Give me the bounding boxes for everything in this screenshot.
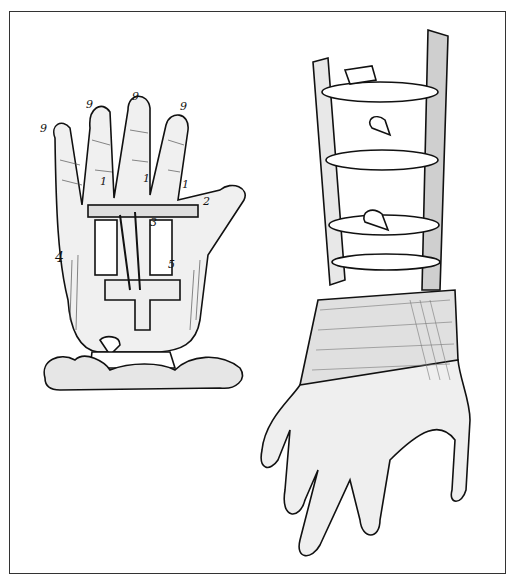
mechanical-hand (44, 96, 245, 390)
label-joint-1: 1 (100, 175, 107, 188)
label-spring: 5 (168, 258, 175, 271)
label-rod: 4 (54, 249, 64, 265)
label-joint-3: 1 (182, 178, 189, 191)
label-fingertip-1: 9 (40, 122, 47, 135)
label-fingertip-4: 9 (180, 100, 187, 113)
armored-arm (261, 30, 470, 556)
label-fingertip-3: 9 (132, 90, 139, 103)
label-pin: 2 (202, 195, 210, 208)
label-lever: 3 (150, 216, 157, 229)
label-joint-2: 1 (143, 172, 150, 185)
engraving-canvas: 9 9 9 9 1 1 1 2 3 4 5 (0, 0, 518, 586)
label-fingertip-2: 9 (86, 98, 93, 111)
